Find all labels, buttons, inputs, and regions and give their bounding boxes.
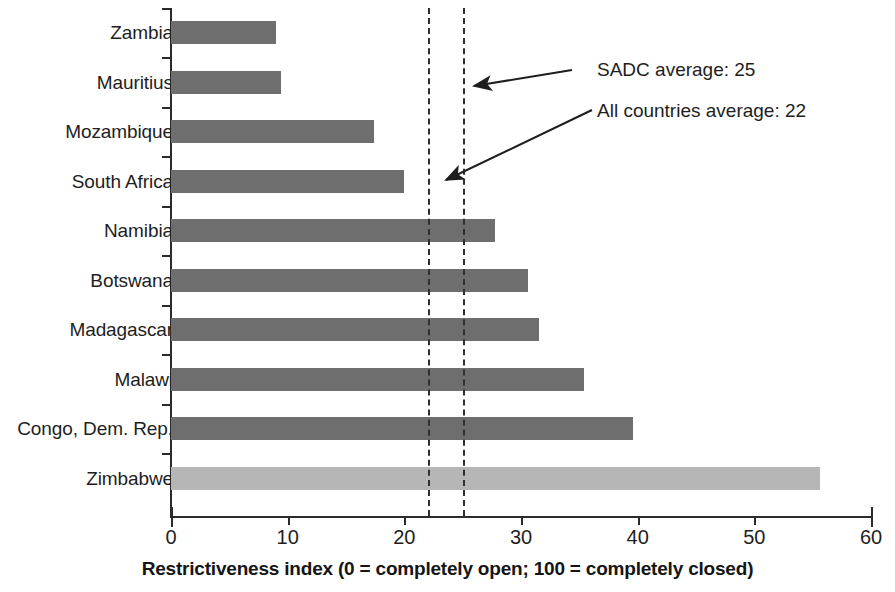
bar (171, 21, 276, 44)
y-axis-tick (162, 305, 171, 307)
bar (171, 368, 584, 391)
x-axis-tick-label: 20 (374, 525, 434, 549)
y-axis-tick (162, 206, 171, 208)
bar (171, 219, 495, 242)
x-axis-tick-label: 50 (724, 525, 784, 549)
x-axis-tick-label: 30 (491, 525, 551, 549)
y-axis-tick (162, 107, 171, 109)
x-axis-tick (638, 516, 640, 525)
x-axis-tick (171, 507, 173, 527)
category-label: Mauritius (0, 72, 173, 94)
bar (171, 318, 539, 341)
x-axis-tick-label: 0 (141, 525, 201, 549)
x-axis-tick (404, 516, 406, 525)
x-axis-tick (521, 516, 523, 525)
restrictiveness-index-bar-chart: ZambiaMauritiusMozambiqueSouth AfricaNam… (0, 0, 895, 592)
sadc-average-reference-line (463, 8, 465, 516)
bar (171, 417, 633, 440)
x-axis-tick (288, 516, 290, 525)
category-label: Congo, Dem. Rep. (0, 418, 173, 440)
y-axis-tick (162, 354, 171, 356)
sadc-average-annotation-label: SADC average: 25 (597, 59, 755, 81)
category-label: Zimbabwe (0, 468, 173, 490)
y-axis-tick (162, 453, 171, 455)
x-axis-tick-label: 60 (841, 525, 895, 549)
x-axis-tick (754, 516, 756, 525)
bar (171, 170, 404, 193)
x-axis-title: Restrictiveness index (0 = completely op… (0, 558, 895, 580)
bar (171, 269, 528, 292)
x-axis-tick-label: 10 (258, 525, 318, 549)
category-label: Madagascar (0, 319, 173, 341)
all-countries-average-reference-line (428, 8, 430, 516)
bar (171, 71, 281, 94)
y-axis-tick (162, 404, 171, 406)
x-axis-tick-label: 40 (608, 525, 668, 549)
y-axis-tick (162, 156, 171, 158)
bar (171, 120, 374, 143)
category-label: Namibia (0, 220, 173, 242)
category-label: Mozambique (0, 121, 173, 143)
y-axis-tick (162, 57, 171, 59)
category-label: South Africa (0, 171, 173, 193)
y-axis-tick (162, 255, 171, 257)
all-countries-average-annotation-label: All countries average: 22 (597, 100, 806, 122)
y-axis-top-cap (162, 8, 171, 10)
category-label: Malawi (0, 369, 173, 391)
all-countries-average-arrow (446, 110, 592, 180)
bar (171, 467, 820, 490)
category-label: Botswana (0, 270, 173, 292)
sadc-average-arrow (474, 70, 572, 86)
x-axis-tick (871, 507, 873, 527)
category-label: Zambia (0, 22, 173, 44)
